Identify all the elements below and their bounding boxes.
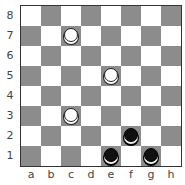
square-f3[interactable]: [121, 106, 141, 126]
square-b7[interactable]: [41, 26, 61, 46]
square-g6[interactable]: [141, 46, 161, 66]
square-a8[interactable]: [21, 6, 41, 26]
square-h5[interactable]: [161, 66, 181, 86]
square-a1[interactable]: [21, 146, 41, 166]
square-g5[interactable]: [141, 66, 161, 86]
square-d8[interactable]: [81, 6, 101, 26]
square-h3[interactable]: [161, 106, 181, 126]
square-c3[interactable]: [61, 106, 81, 126]
square-b6[interactable]: [41, 46, 61, 66]
square-e7[interactable]: [101, 26, 121, 46]
square-g3[interactable]: [141, 106, 161, 126]
square-d5[interactable]: [81, 66, 101, 86]
square-e8[interactable]: [101, 6, 121, 26]
square-b5[interactable]: [41, 66, 61, 86]
square-a4[interactable]: [21, 86, 41, 106]
file-label: h: [161, 168, 181, 182]
file-label: c: [61, 168, 81, 182]
square-d2[interactable]: [81, 126, 101, 146]
square-c2[interactable]: [61, 126, 81, 146]
square-b8[interactable]: [41, 6, 61, 26]
square-c7[interactable]: [61, 26, 81, 46]
square-h1[interactable]: [161, 146, 181, 166]
square-g1[interactable]: [141, 146, 161, 166]
white-checker-piece[interactable]: [64, 28, 78, 42]
rank-label: 1: [4, 146, 16, 166]
file-label: f: [121, 168, 141, 182]
square-e3[interactable]: [101, 106, 121, 126]
square-h4[interactable]: [161, 86, 181, 106]
square-f2[interactable]: [121, 126, 141, 146]
file-label: e: [101, 168, 121, 182]
square-h7[interactable]: [161, 26, 181, 46]
square-c5[interactable]: [61, 66, 81, 86]
square-f6[interactable]: [121, 46, 141, 66]
checkers-board: [20, 5, 182, 167]
square-b1[interactable]: [41, 146, 61, 166]
rank-label: 3: [4, 106, 16, 126]
file-label: d: [81, 168, 101, 182]
square-e5[interactable]: [101, 66, 121, 86]
square-d1[interactable]: [81, 146, 101, 166]
square-f4[interactable]: [121, 86, 141, 106]
square-d6[interactable]: [81, 46, 101, 66]
file-label: b: [41, 168, 61, 182]
square-h6[interactable]: [161, 46, 181, 66]
black-checker-piece[interactable]: [144, 148, 158, 162]
rank-label: 8: [4, 6, 16, 26]
square-e1[interactable]: [101, 146, 121, 166]
square-a3[interactable]: [21, 106, 41, 126]
square-h8[interactable]: [161, 6, 181, 26]
rank-label: 2: [4, 126, 16, 146]
square-f7[interactable]: [121, 26, 141, 46]
square-g4[interactable]: [141, 86, 161, 106]
square-e6[interactable]: [101, 46, 121, 66]
square-a5[interactable]: [21, 66, 41, 86]
square-e4[interactable]: [101, 86, 121, 106]
square-g8[interactable]: [141, 6, 161, 26]
square-d7[interactable]: [81, 26, 101, 46]
black-checker-piece[interactable]: [124, 128, 138, 142]
square-e2[interactable]: [101, 126, 121, 146]
square-f8[interactable]: [121, 6, 141, 26]
square-b4[interactable]: [41, 86, 61, 106]
black-checker-piece[interactable]: [104, 148, 118, 162]
square-h2[interactable]: [161, 126, 181, 146]
square-d4[interactable]: [81, 86, 101, 106]
square-a7[interactable]: [21, 26, 41, 46]
square-g7[interactable]: [141, 26, 161, 46]
rank-label: 5: [4, 66, 16, 86]
rank-label: 4: [4, 86, 16, 106]
rank-label: 6: [4, 46, 16, 66]
white-checker-piece[interactable]: [64, 108, 78, 122]
file-label: a: [21, 168, 41, 182]
square-a6[interactable]: [21, 46, 41, 66]
file-label: g: [141, 168, 161, 182]
rank-label: 7: [4, 26, 16, 46]
square-b2[interactable]: [41, 126, 61, 146]
square-b3[interactable]: [41, 106, 61, 126]
square-c6[interactable]: [61, 46, 81, 66]
square-f1[interactable]: [121, 146, 141, 166]
square-a2[interactable]: [21, 126, 41, 146]
square-g2[interactable]: [141, 126, 161, 146]
square-f5[interactable]: [121, 66, 141, 86]
square-c4[interactable]: [61, 86, 81, 106]
square-c1[interactable]: [61, 146, 81, 166]
white-checker-piece[interactable]: [104, 68, 118, 82]
square-d3[interactable]: [81, 106, 101, 126]
square-c8[interactable]: [61, 6, 81, 26]
